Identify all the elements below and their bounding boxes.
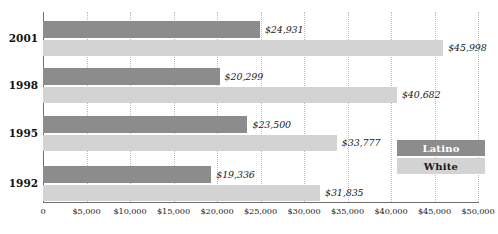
x-tick-label: $10,000: [113, 206, 146, 216]
bar-value-label: $24,931: [265, 24, 304, 35]
x-tick-label: $20,000: [200, 206, 233, 216]
legend-item-white[interactable]: White: [397, 158, 485, 174]
x-axis-line: [43, 202, 479, 203]
bar-latino[interactable]: [43, 21, 260, 38]
bar-white[interactable]: [43, 135, 337, 151]
y-axis-label-1998: 1998: [0, 79, 38, 91]
legend-label-latino: Latino: [422, 143, 459, 154]
bar-row: $31,835: [43, 185, 478, 201]
y-axis-label-1992: 1992: [0, 177, 38, 189]
x-tick-label: $25,000: [244, 206, 277, 216]
bar-row: $24,931: [43, 21, 478, 38]
bar-chart: 2001199819951992 $24,931$45,998$20,299$4…: [0, 0, 498, 234]
x-tick-label: $45,000: [418, 206, 451, 216]
legend: Latino White: [397, 140, 485, 174]
bar-value-label: $33,777: [342, 137, 381, 148]
bar-group: $20,299$40,682: [43, 68, 478, 103]
bar-value-label: $31,835: [325, 187, 364, 198]
bar-white[interactable]: [43, 87, 397, 103]
bar-value-label: $19,336: [216, 169, 255, 180]
x-tick-label: 0: [40, 206, 45, 216]
bar-value-label: $40,682: [402, 89, 441, 100]
x-tick-label: $15,000: [157, 206, 190, 216]
x-tick-label: $5,000: [72, 206, 100, 216]
bar-value-label: $20,299: [225, 71, 264, 82]
x-axis-tick-labels: 0$5,000$10,000$15,000$20,000$25,000$30,0…: [0, 206, 498, 222]
bar-value-label: $45,998: [448, 42, 487, 53]
bar-value-label: $23,500: [252, 119, 291, 130]
legend-item-latino[interactable]: Latino: [397, 140, 485, 156]
y-axis-label-2001: 2001: [0, 32, 38, 44]
bar-latino[interactable]: [43, 68, 220, 85]
bar-latino[interactable]: [43, 116, 247, 133]
bar-row: $45,998: [43, 40, 478, 56]
y-axis-category-labels: 2001199819951992: [0, 12, 40, 202]
bar-row: $23,500: [43, 116, 478, 133]
bar-row: $40,682: [43, 87, 478, 103]
bar-latino[interactable]: [43, 166, 211, 183]
bar-row: $20,299: [43, 68, 478, 85]
bar-group: $24,931$45,998: [43, 21, 478, 56]
x-tick-label: $35,000: [331, 206, 364, 216]
x-tick-label: $40,000: [374, 206, 407, 216]
x-tick-label: $50,000: [461, 206, 494, 216]
bar-white[interactable]: [43, 40, 443, 56]
bar-white[interactable]: [43, 185, 320, 201]
x-tick-label: $30,000: [287, 206, 320, 216]
y-axis-label-1995: 1995: [0, 127, 38, 139]
legend-label-white: White: [424, 161, 458, 172]
